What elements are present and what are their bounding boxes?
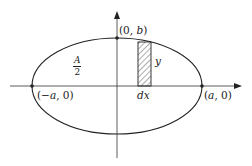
label-top-close: ) <box>143 24 147 36</box>
area-numerator: A <box>73 56 82 65</box>
point-right <box>200 84 204 88</box>
label-left-open: (− <box>37 89 50 101</box>
label-strip-width: dx <box>137 90 150 101</box>
label-top-point: (0, b) <box>119 25 147 36</box>
area-denominator: 2 <box>74 68 80 77</box>
label-left-point: (−a, 0) <box>37 90 74 101</box>
label-left-close: , 0) <box>56 89 73 101</box>
y-axis-arrow-icon <box>114 11 120 19</box>
point-top <box>115 36 119 40</box>
label-right-point: (a, 0) <box>204 90 232 101</box>
hatched-strip <box>138 42 151 86</box>
point-left <box>30 84 34 88</box>
label-right-close: , 0) <box>214 89 231 101</box>
label-strip-height: y <box>155 56 161 67</box>
ellipse-area-diagram: (0, b) A 2 y dx (−a, 0) (a, 0) <box>0 0 252 166</box>
label-area-fraction: A 2 <box>73 56 82 77</box>
label-top-open: (0, <box>119 24 136 36</box>
x-axis-arrow-icon <box>234 83 242 89</box>
